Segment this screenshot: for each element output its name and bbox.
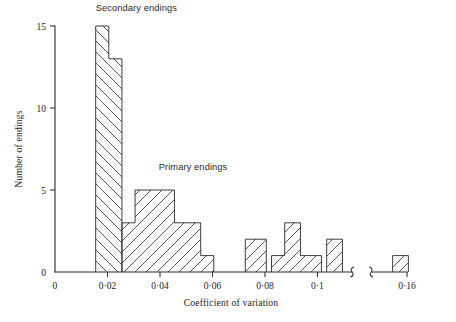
- bar-series: [122, 190, 408, 272]
- x-axis-tick-label: 0·08: [256, 280, 274, 291]
- histogram-bar: [122, 223, 135, 272]
- histogram-bar: [96, 26, 109, 272]
- x-axis-tick-label: 0·02: [99, 280, 117, 291]
- x-axis-tick-label: 0·1: [311, 280, 324, 291]
- histogram-bar: [285, 223, 301, 272]
- histogram-bar: [201, 256, 214, 272]
- y-axis-tick-label: 5: [41, 185, 46, 196]
- series-annotation: Primary endings: [159, 162, 228, 172]
- histogram-bar: [174, 223, 200, 272]
- histogram-bar: [272, 256, 285, 272]
- bar-series: [96, 26, 122, 272]
- x-axis-tick-label: 0·16: [398, 280, 416, 291]
- y-axis-tick-label: 15: [36, 21, 46, 32]
- x-axis-tick-label: 0: [53, 280, 58, 291]
- bars-layer: [96, 26, 409, 272]
- histogram-plot: 00·020·040·060·080·10·16051015Coefficien…: [0, 0, 456, 322]
- x-axis-title: Coefficient of variation: [184, 297, 279, 308]
- histogram-bar: [109, 59, 122, 272]
- histogram-bar: [327, 239, 343, 272]
- series-annotation: Secondary endings: [96, 3, 178, 13]
- histogram-bar: [300, 256, 321, 272]
- histogram-bar: [245, 239, 266, 272]
- histogram-figure: 00·020·040·060·080·10·16051015Coefficien…: [0, 0, 456, 322]
- histogram-bar: [135, 190, 174, 272]
- x-axis-tick-label: 0·06: [204, 280, 222, 291]
- histogram-bar: [393, 256, 409, 272]
- y-axis-title: Number of endings: [13, 110, 24, 188]
- x-axis-tick-label: 0·04: [151, 280, 169, 291]
- y-axis-tick-label: 10: [36, 103, 46, 114]
- y-axis-tick-label: 0: [41, 267, 46, 278]
